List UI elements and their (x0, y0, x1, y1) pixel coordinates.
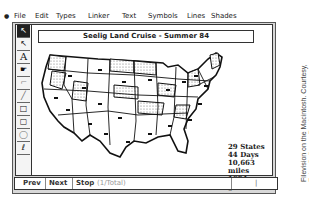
line-tool-icon[interactable]: ╱ (17, 90, 30, 103)
menu-shades[interactable]: Shades (211, 12, 237, 20)
pointer-tool-icon[interactable]: ↖ (17, 25, 30, 38)
freehand-tool-icon[interactable]: ℓ (17, 142, 30, 155)
divider (45, 178, 46, 189)
oval-tool-icon[interactable]: ◯ (17, 129, 30, 142)
toolbox: ↖ ↖ A ☛ ⌐ ╱ □ ▢ ◯ ℓ (15, 24, 32, 176)
apple-menu[interactable]: ● (4, 12, 9, 19)
menu-symbols[interactable]: Symbols (148, 12, 178, 20)
menu-linker[interactable]: Linker (88, 12, 109, 20)
stat-miles: 10,663 miles (228, 159, 272, 175)
prev-button[interactable]: Prev (23, 178, 41, 189)
menu-file[interactable]: File (14, 12, 26, 20)
orthogonal-line-tool-icon[interactable]: ⌐ (17, 77, 30, 90)
status-bar: Prev Next Stop (1/Total) | (14, 177, 278, 190)
rounded-rectangle-tool-icon[interactable]: ▢ (17, 116, 30, 129)
map-document: Seelig Land Cruise - Summer 84 (31, 24, 273, 176)
next-button[interactable]: Next (49, 178, 67, 189)
pointing-hand-tool-icon[interactable]: ☛ (17, 64, 30, 77)
photo-credit: Filevision on the Macintosh. Courtesy, T… (288, 32, 300, 182)
divider (231, 178, 232, 189)
stop-info: (1/Total) (97, 178, 126, 189)
us-map-icon[interactable] (38, 45, 238, 165)
menu-bar: ● File Edit Types Linker Text Symbols Li… (0, 10, 245, 22)
menu-types[interactable]: Types (56, 12, 76, 20)
scroll-indicator[interactable]: | (255, 178, 257, 189)
document-title: Seelig Land Cruise - Summer 84 (38, 30, 254, 43)
stop-button[interactable]: Stop (76, 178, 94, 189)
menu-lines[interactable]: Lines (187, 12, 205, 20)
menu-edit[interactable]: Edit (35, 12, 49, 20)
credit-text: Filevision on the Macintosh. Courtesy, T… (300, 32, 309, 182)
arrow-tool-icon[interactable]: ↖ (17, 38, 30, 51)
text-tool-icon[interactable]: A (17, 51, 30, 64)
divider (72, 178, 73, 189)
menu-text[interactable]: Text (122, 12, 136, 20)
rectangle-tool-icon[interactable]: □ (17, 103, 30, 116)
